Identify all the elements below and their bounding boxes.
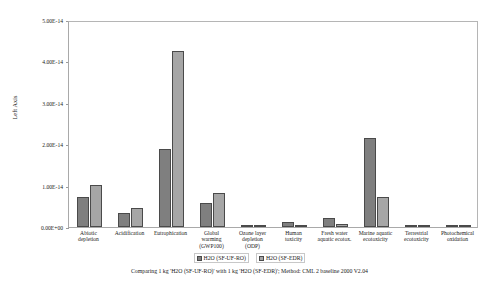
legend-label: H2O (SF-EDR) <box>266 255 303 262</box>
bar <box>364 138 377 227</box>
bar-group <box>438 22 479 227</box>
bar <box>459 225 472 227</box>
y-axis-tick-label: 0.00E+00 <box>19 225 63 231</box>
y-axis-title: Left Axis <box>11 63 18 153</box>
bar <box>241 225 254 227</box>
legend-swatch-icon <box>259 256 264 261</box>
bars-layer <box>69 22 477 227</box>
legend-label: H2O (SF-UF-RO) <box>204 255 246 262</box>
legend-swatch-icon <box>197 256 202 261</box>
bar <box>172 51 185 227</box>
bar <box>254 225 267 227</box>
bar <box>405 225 418 227</box>
bar-group <box>192 22 233 227</box>
legend-item[interactable]: H2O (SF-EDR) <box>256 253 306 263</box>
bar <box>295 225 308 227</box>
y-axis-tick-label: 3.00E-14 <box>19 101 63 107</box>
bar-chart: Left Axis 0.00E+001.00E-142.00E-143.00E-… <box>0 0 499 285</box>
bar-group <box>315 22 356 227</box>
bar <box>200 203 213 227</box>
bar <box>377 197 390 227</box>
bar-group <box>110 22 151 227</box>
bar-group <box>151 22 192 227</box>
bar <box>213 193 226 227</box>
y-axis-tick-mark <box>66 228 69 229</box>
bar-group <box>356 22 397 227</box>
y-axis: Left Axis 0.00E+001.00E-142.00E-143.00E-… <box>0 0 63 285</box>
bar <box>118 213 131 227</box>
plot-area <box>68 21 478 228</box>
bar <box>90 185 103 227</box>
bar <box>131 208 144 227</box>
x-axis-tick-label: Photochemical oxidation <box>433 230 482 243</box>
bar-group <box>397 22 438 227</box>
bar-group <box>274 22 315 227</box>
bar-group <box>69 22 110 227</box>
chart-legend: H2O (SF-UF-RO)H2O (SF-EDR) <box>0 253 499 263</box>
bar <box>336 224 349 227</box>
bar <box>159 149 172 227</box>
y-axis-tick-label: 4.00E-14 <box>19 59 63 65</box>
bar-group <box>233 22 274 227</box>
bar <box>77 197 90 227</box>
bar <box>418 225 431 227</box>
bar <box>323 218 336 227</box>
y-axis-tick-label: 2.00E-14 <box>19 142 63 148</box>
legend-item[interactable]: H2O (SF-UF-RO) <box>194 253 249 263</box>
chart-footer-note: Comparing 1 kg 'H2O (SF-UF-RO)' with 1 k… <box>0 267 499 275</box>
bar <box>282 222 295 227</box>
bar <box>446 225 459 227</box>
y-axis-tick-label: 5.00E-14 <box>19 18 63 24</box>
y-axis-tick-label: 1.00E-14 <box>19 184 63 190</box>
